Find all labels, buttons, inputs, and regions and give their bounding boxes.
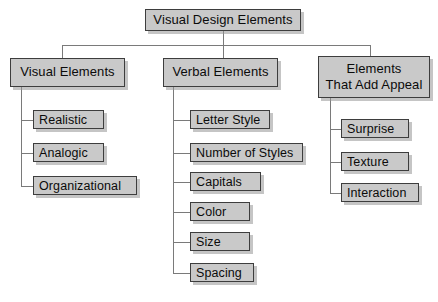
leaf-line-letter-style xyxy=(173,120,190,121)
level2-bus-line xyxy=(62,45,371,46)
leaf-line-organizational xyxy=(21,186,33,187)
leaf-line-analogic xyxy=(21,153,33,154)
leaf-line-capitals xyxy=(173,182,190,183)
node-letter-style[interactable]: Letter Style xyxy=(190,110,270,129)
spine-line-visual-elements xyxy=(21,87,22,186)
drop-line-verbal-elements xyxy=(223,45,224,58)
leaf-line-size xyxy=(173,242,190,243)
node-spacing[interactable]: Spacing xyxy=(190,263,254,282)
spine-line-elements-that-add-appeal xyxy=(330,98,331,193)
leaf-line-texture xyxy=(330,162,341,163)
node-realistic[interactable]: Realistic xyxy=(33,110,104,129)
leaf-line-realistic xyxy=(21,120,33,121)
node-surprise[interactable]: Surprise xyxy=(341,119,409,138)
node-color[interactable]: Color xyxy=(190,202,250,221)
node-visual-elements[interactable]: Visual Elements xyxy=(10,58,125,87)
node-capitals[interactable]: Capitals xyxy=(190,172,261,191)
node-elements-that-add-appeal[interactable]: Elements That Add Appeal xyxy=(318,56,430,98)
leaf-line-color xyxy=(173,212,190,213)
spine-line-verbal-elements xyxy=(173,87,174,273)
leaf-line-number-of-styles xyxy=(173,153,190,154)
node-verbal-elements[interactable]: Verbal Elements xyxy=(163,58,278,87)
node-interaction[interactable]: Interaction xyxy=(341,183,419,202)
leaf-line-interaction xyxy=(330,193,341,194)
root-stem-line xyxy=(223,31,224,45)
leaf-line-spacing xyxy=(173,273,190,274)
node-analogic[interactable]: Analogic xyxy=(33,143,104,162)
node-texture[interactable]: Texture xyxy=(341,152,409,171)
node-number-of-styles[interactable]: Number of Styles xyxy=(190,143,303,162)
node-size[interactable]: Size xyxy=(190,232,250,251)
diagram-canvas: Visual Design Elements Visual Elements V… xyxy=(0,0,438,302)
drop-line-elements-that-add-appeal xyxy=(370,45,371,56)
drop-line-visual-elements xyxy=(62,45,63,58)
node-organizational[interactable]: Organizational xyxy=(33,176,137,195)
leaf-line-surprise xyxy=(330,129,341,130)
node-visual-design-elements[interactable]: Visual Design Elements xyxy=(145,9,301,31)
